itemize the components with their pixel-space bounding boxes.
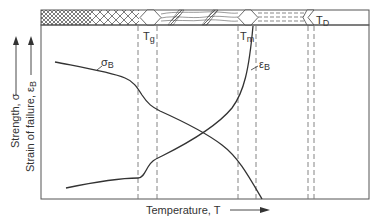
arrow-up-icon — [13, 36, 19, 45]
strength-curve-label: σB — [101, 56, 114, 70]
y-axis-strength: Strength, σ — [9, 36, 21, 148]
arrow-up-icon — [28, 36, 34, 45]
x-axis: Temperature, T — [146, 204, 270, 216]
x-label: Temperature, T — [146, 204, 221, 216]
strength-curve — [55, 62, 262, 199]
strain-curve-label: εB — [259, 58, 270, 72]
y-label-strain: Strain of failure, εB — [24, 81, 38, 172]
y-axis-strain: Strain of failure, εB — [24, 36, 38, 172]
plot-frame — [41, 25, 369, 199]
y-label-strength: Strength, σ — [9, 93, 21, 148]
diagram-canvas: Tg Tm TD σB εB Strength, σ Strain of fai… — [0, 0, 378, 221]
glassy-region-coarse — [91, 10, 139, 25]
tg-label: Tg — [143, 30, 155, 44]
glassy-region — [41, 10, 91, 25]
strain-curve — [66, 26, 253, 188]
strain-label-leader — [251, 66, 258, 70]
arrow-right-icon — [260, 207, 270, 213]
